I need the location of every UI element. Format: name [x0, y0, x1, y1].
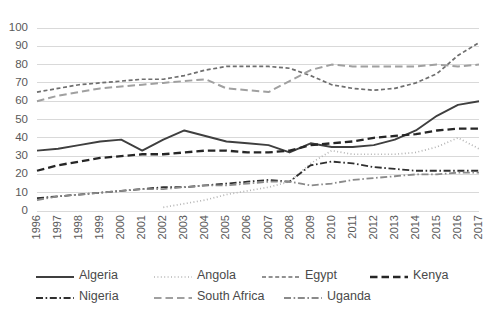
legend-item-kenya[interactable]: Kenya — [370, 266, 470, 284]
legend-label: Nigeria — [79, 289, 119, 303]
legend-label: South Africa — [197, 289, 264, 303]
legend-label: Kenya — [413, 268, 448, 282]
x-axis-tick-2005: 2005 — [220, 215, 231, 239]
x-axis-tick-1996: 1996 — [31, 215, 42, 239]
x-axis-tick-2010: 2010 — [326, 215, 337, 239]
legend-label: Uganda — [327, 289, 371, 303]
x-axis-tick-2006: 2006 — [241, 215, 252, 239]
x-axis-tick-2001: 2001 — [136, 215, 147, 239]
x-axis-tick-1998: 1998 — [73, 215, 84, 239]
x-axis-tick-2000: 2000 — [115, 215, 126, 239]
legend-swatch-icon — [154, 269, 192, 281]
line-chart: 0102030405060708090100 19961997199819992… — [0, 0, 489, 312]
x-axis-tick-2016: 2016 — [452, 215, 463, 239]
series-line-kenya — [37, 129, 479, 171]
legend-item-uganda[interactable]: Uganda — [284, 287, 394, 305]
x-axis-tick-2009: 2009 — [305, 215, 316, 239]
legend-item-angola[interactable]: Angola — [154, 266, 262, 284]
legend-item-egypt[interactable]: Egypt — [262, 266, 370, 284]
x-axis-tick-2003: 2003 — [178, 215, 189, 239]
legend-swatch-icon — [36, 290, 74, 302]
x-axis-tick-1999: 1999 — [94, 215, 105, 239]
x-axis-tick-2012: 2012 — [368, 215, 379, 239]
x-axis-tick-2015: 2015 — [431, 215, 442, 239]
legend-item-south-africa[interactable]: South Africa — [154, 287, 294, 305]
legend-swatch-icon — [262, 269, 300, 281]
chart-legend: AlgeriaAngolaEgyptKenyaNigeriaSouth Afri… — [36, 266, 456, 306]
legend-label: Algeria — [79, 268, 118, 282]
x-axis-tick-2007: 2007 — [263, 215, 274, 239]
x-axis-tick-2011: 2011 — [347, 215, 358, 239]
legend-swatch-icon — [370, 269, 408, 281]
legend-swatch-icon — [36, 269, 74, 281]
series-line-angola — [163, 138, 479, 208]
series-line-algeria — [37, 101, 479, 152]
x-axis-tick-1997: 1997 — [52, 215, 63, 239]
x-axis-tick-2002: 2002 — [157, 215, 168, 239]
legend-swatch-icon — [154, 290, 192, 302]
x-axis-tick-2013: 2013 — [389, 215, 400, 239]
legend-label: Angola — [197, 268, 236, 282]
legend-item-algeria[interactable]: Algeria — [36, 266, 154, 284]
x-axis-tick-2004: 2004 — [199, 215, 210, 239]
series-line-uganda — [37, 173, 479, 200]
x-axis-tick-2008: 2008 — [284, 215, 295, 239]
x-axis-tick-2017: 2017 — [473, 215, 484, 239]
legend-item-nigeria[interactable]: Nigeria — [36, 287, 154, 305]
legend-swatch-icon — [284, 290, 322, 302]
x-axis-tick-2014: 2014 — [410, 215, 421, 239]
legend-label: Egypt — [305, 268, 337, 282]
